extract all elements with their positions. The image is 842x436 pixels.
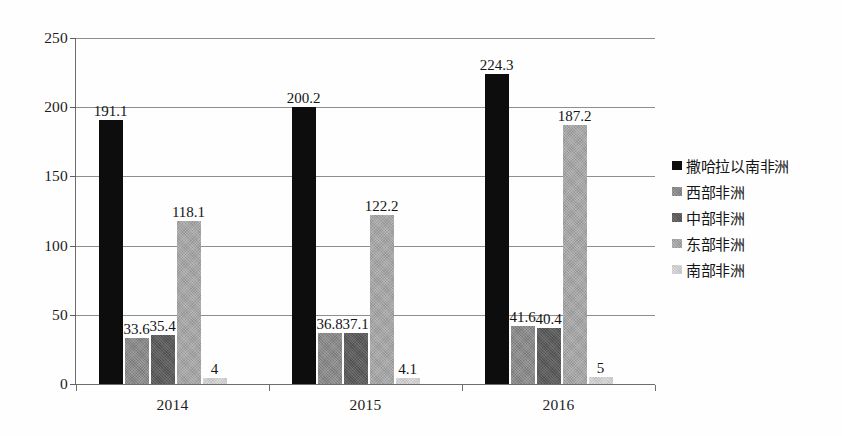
bar-value-label: 35.4 xyxy=(149,319,175,334)
bar[interactable] xyxy=(344,333,368,384)
bar-value-label: 37.1 xyxy=(342,317,368,332)
y-tick-mark xyxy=(70,315,76,316)
bar[interactable] xyxy=(318,333,342,384)
legend-swatch-icon xyxy=(672,239,682,248)
legend-label: 中部非洲 xyxy=(686,207,745,228)
legend-swatch-icon xyxy=(672,213,682,222)
bar-value-label: 33.6 xyxy=(123,322,149,337)
legend-label: 西部非洲 xyxy=(686,181,745,202)
bar-group: 200.236.837.1122.24.1 xyxy=(269,38,462,384)
legend-label: 南部非洲 xyxy=(686,259,745,280)
bar-value-label: 122.2 xyxy=(365,199,399,214)
x-tick-mark xyxy=(655,385,656,391)
x-tick-mark xyxy=(462,385,463,391)
y-tick-label: 0 xyxy=(22,375,68,393)
chart-legend: 撒哈拉以南非洲西部非洲中部非洲东部非洲南部非洲 xyxy=(672,152,838,282)
plot-area: 191.133.635.4118.14200.236.837.1122.24.1… xyxy=(76,38,655,384)
bar[interactable] xyxy=(99,120,123,384)
y-tick-label: 100 xyxy=(22,237,68,255)
legend-item[interactable]: 中部非洲 xyxy=(672,204,838,230)
bar-value-label: 40.4 xyxy=(535,312,561,327)
bar-value-label: 41.6 xyxy=(509,310,535,325)
legend-item[interactable]: 撒哈拉以南非洲 xyxy=(672,152,838,178)
legend-swatch-icon xyxy=(672,265,682,274)
y-tick-mark xyxy=(70,107,76,108)
bar-value-label: 4 xyxy=(211,362,219,377)
bar[interactable] xyxy=(292,107,316,384)
bar-value-label: 200.2 xyxy=(287,91,321,106)
bar-value-label: 118.1 xyxy=(172,205,205,220)
y-tick-mark xyxy=(70,176,76,177)
bar[interactable] xyxy=(177,221,201,384)
legend-item[interactable]: 东部非洲 xyxy=(672,230,838,256)
bar-value-label: 191.1 xyxy=(94,104,128,119)
x-axis-label: 2016 xyxy=(542,396,574,414)
y-tick-mark xyxy=(70,384,76,385)
bar-value-label: 187.2 xyxy=(558,109,592,124)
x-tick-mark xyxy=(76,385,77,391)
bar[interactable] xyxy=(203,378,227,384)
bar[interactable] xyxy=(537,328,561,384)
y-tick-label: 150 xyxy=(22,167,68,185)
legend-label: 东部非洲 xyxy=(686,233,745,254)
legend-swatch-icon xyxy=(672,187,682,196)
bar-chart-figure: 050100150200250 191.133.635.4118.14200.2… xyxy=(0,0,842,436)
bar-value-label: 36.8 xyxy=(316,317,342,332)
gridline xyxy=(76,384,655,385)
bar-value-label: 224.3 xyxy=(480,58,514,73)
bar-value-label: 4.1 xyxy=(398,362,417,377)
x-axis-label: 2015 xyxy=(349,396,381,414)
bar[interactable] xyxy=(589,377,613,384)
bar[interactable] xyxy=(563,125,587,384)
y-tick-label: 50 xyxy=(22,306,68,324)
bar[interactable] xyxy=(370,215,394,384)
y-tick-label: 200 xyxy=(22,98,68,116)
bar[interactable] xyxy=(485,74,509,384)
y-tick-mark xyxy=(70,38,76,39)
bar[interactable] xyxy=(151,335,175,384)
bar-value-label: 5 xyxy=(597,361,605,376)
y-tick-mark xyxy=(70,246,76,247)
bar-group: 224.341.640.4187.25 xyxy=(462,38,655,384)
legend-label: 撒哈拉以南非洲 xyxy=(686,155,789,176)
legend-item[interactable]: 西部非洲 xyxy=(672,178,838,204)
bar[interactable] xyxy=(125,338,149,385)
legend-swatch-icon xyxy=(672,161,682,170)
bar[interactable] xyxy=(511,326,535,384)
x-axis-label: 2014 xyxy=(156,396,188,414)
bar-group: 191.133.635.4118.14 xyxy=(76,38,269,384)
y-tick-label: 250 xyxy=(22,29,68,47)
y-axis-labels: 050100150200250 xyxy=(12,0,68,436)
legend-item[interactable]: 南部非洲 xyxy=(672,256,838,282)
x-tick-mark xyxy=(269,385,270,391)
bar[interactable] xyxy=(396,378,420,384)
